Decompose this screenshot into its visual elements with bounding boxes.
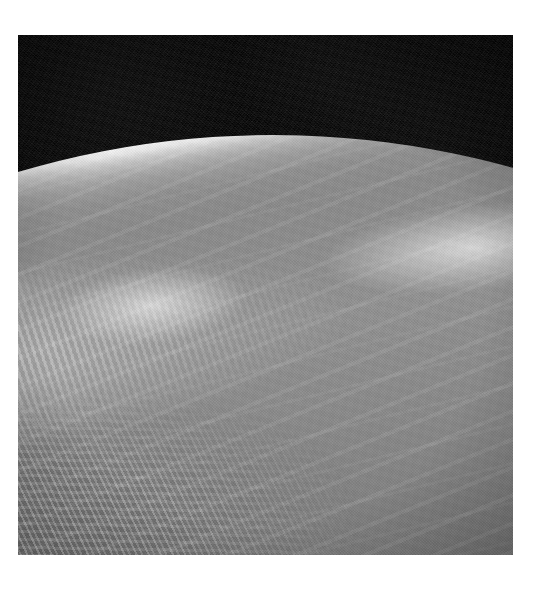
paper-margin-top bbox=[0, 0, 533, 35]
earth-photograph bbox=[18, 35, 513, 555]
paper-margin-bottom bbox=[0, 555, 533, 592]
atmospheric-haze-streaks bbox=[18, 75, 513, 555]
earth-globe-container bbox=[18, 35, 513, 555]
photo-plate-page bbox=[0, 0, 533, 592]
earth-limb-disc bbox=[18, 35, 513, 555]
earth-surface bbox=[18, 75, 513, 555]
